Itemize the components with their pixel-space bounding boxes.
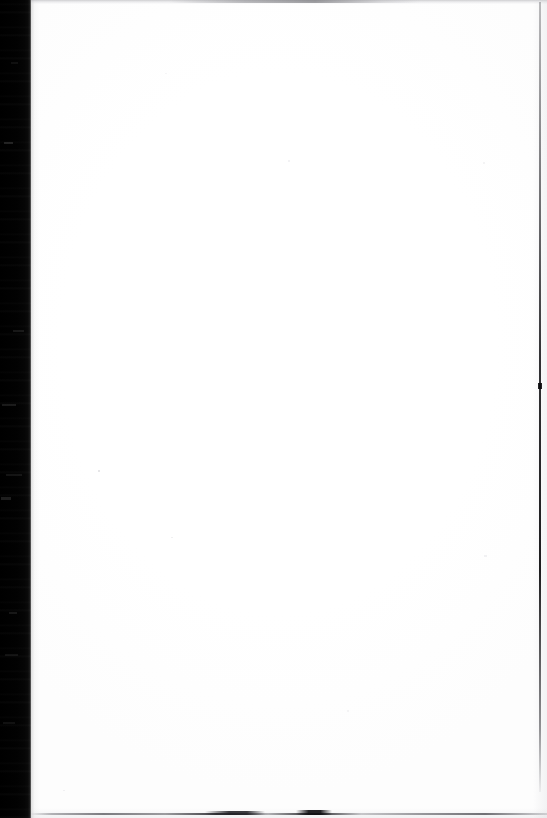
scanner-band-speck <box>9 612 17 614</box>
scanner-band-texture <box>0 0 31 818</box>
scanner-edge-band-left <box>0 0 31 818</box>
scanner-band-speck <box>4 142 13 144</box>
scanner-band-speck <box>6 474 22 476</box>
scanner-band-speck <box>3 722 15 724</box>
scanned-page <box>0 0 547 818</box>
page-body-text <box>62 60 512 760</box>
scanner-band-speck <box>5 654 18 656</box>
scanner-band-speck <box>11 62 18 64</box>
scanner-band-speck <box>1 497 11 500</box>
scanner-band-speck <box>13 330 24 332</box>
scanner-band-speck <box>2 404 16 406</box>
